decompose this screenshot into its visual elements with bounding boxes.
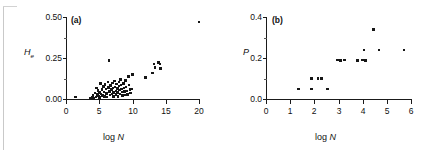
data-point [125,86,127,88]
y-axis-title-a-sub: e [31,52,34,59]
data-point [356,59,359,62]
y-tick-b-2 [263,17,267,18]
figure-container: 0.000.250.5005101520 (a) He log N 0.00.2… [0,0,430,153]
data-point [117,95,119,97]
y-axis-title-b: P [243,47,249,57]
data-point [128,84,130,86]
y-axis-title-b-text: P [243,47,249,57]
x-tick-label-a-1: 5 [85,106,113,116]
data-point [343,59,345,61]
data-point [113,80,115,82]
data-point [320,77,322,79]
x-tick-label-a-0: 0 [52,106,80,116]
data-point [363,49,365,51]
y-minor-tick-b-0 [264,79,267,80]
y-tick-a-1 [63,58,67,59]
y-tick-label-a-2: 0.50 [22,12,62,22]
y-tick-label-b-0: 0.0 [222,94,262,104]
x-axis-title-a: log N [103,132,124,142]
y-minor-tick-b-1 [264,38,267,39]
data-point [131,73,133,75]
data-point [339,59,342,62]
x-tick-label-b-6: 6 [397,106,425,116]
y-tick-b-1 [263,58,267,59]
x-tick-b-2 [314,100,315,104]
x-tick-a-1 [99,100,100,104]
data-point [124,79,127,82]
panel-b: 0.00.20.40123456 (b) P log N [215,0,430,153]
x-tick-label-a-2: 10 [119,106,147,116]
panel-label-a: (a) [71,15,81,25]
data-point [198,21,200,23]
y-minor-tick-a-1 [64,38,67,39]
y-tick-a-2 [63,17,67,18]
x-tick-b-1 [290,100,291,104]
data-point [151,72,153,74]
data-point [126,93,129,96]
x-tick-b-4 [363,100,364,104]
x-tick-b-3 [339,100,340,104]
y-tick-label-b-1: 0.2 [222,53,262,63]
y-tick-label-b-2: 0.4 [222,12,262,22]
x-tick-label-a-4: 20 [185,106,213,116]
data-point [108,59,110,61]
panel-a: 0.000.250.5005101520 (a) He log N [0,0,215,153]
data-point [129,92,131,94]
data-point [153,63,155,65]
data-point [131,88,133,90]
data-point [107,81,109,83]
data-point [154,66,156,68]
data-point [159,67,161,69]
x-tick-b-6 [411,100,412,104]
y-minor-tick-a-0 [64,79,67,80]
x-tick-a-3 [166,100,167,104]
x-tick-b-5 [387,100,388,104]
data-point [310,77,312,79]
x-tick-b-0 [266,100,267,104]
data-point [119,78,121,80]
data-point [364,59,367,62]
x-tick-a-2 [133,100,134,104]
data-point [378,49,380,51]
x-tick-label-a-3: 15 [152,106,180,116]
data-point [403,49,405,51]
y-tick-label-a-0: 0.00 [22,94,62,104]
data-point [159,63,161,65]
data-point [127,75,130,78]
y-axis-title-a: He [24,47,34,59]
data-point [297,88,299,90]
data-point [317,77,319,79]
x-tick-label-b-2: 2 [300,106,328,116]
data-point [74,96,76,98]
panel-label-b: (b) [272,15,283,25]
data-point [310,88,312,90]
data-point [122,82,125,85]
x-tick-a-0 [66,100,67,104]
x-tick-a-4 [199,100,200,104]
data-point [372,28,374,30]
data-point [326,88,328,90]
data-point [144,76,147,79]
x-axis-title-b: log N [315,132,336,142]
